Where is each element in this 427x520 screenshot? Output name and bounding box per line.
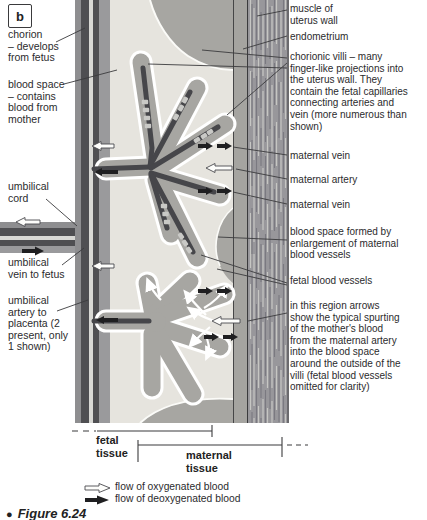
endometrium-band xyxy=(233,0,248,423)
label-blood-space-formed: blood space formed by enlargement of mat… xyxy=(290,226,427,261)
label-endometrium: endometrium xyxy=(290,31,427,43)
figure-caption: ● Figure 6.24 xyxy=(6,506,86,520)
panel-label: b xyxy=(8,4,32,28)
caption-bullet-icon: ● xyxy=(6,508,13,520)
legend-deoxygenated-label: flow of deoxygenated blood xyxy=(115,493,240,504)
legend-oxygenated-arrow-icon xyxy=(85,484,110,493)
chorion-band xyxy=(75,0,110,423)
legend-arrows xyxy=(85,484,110,505)
legend-deoxygenated-arrow-icon xyxy=(85,496,109,505)
muscle-band xyxy=(248,0,289,423)
label-umbilical-artery: umbilical artery to placenta (2 present,… xyxy=(8,295,68,353)
label-umbilical-vein: umbilical vein to fetus xyxy=(8,257,65,280)
label-spurting-note: in this region arrows show the typical s… xyxy=(290,300,427,393)
label-muscle-uterus: muscle of uterus wall xyxy=(290,3,427,26)
figure-page: b chorion – develops from fetus blood sp… xyxy=(0,0,427,520)
label-maternal-artery: maternal artery xyxy=(290,174,427,186)
label-fetal-blood-vessels: fetal blood vessels xyxy=(290,275,427,287)
label-chorion: chorion – develops from fetus xyxy=(8,29,59,64)
label-umbilical-cord: umbilical cord xyxy=(8,181,49,204)
umbilical-cord-band xyxy=(0,222,80,253)
legend-deoxygenated: flow of deoxygenated blood xyxy=(115,493,240,504)
label-maternal-tissue: maternal tissue xyxy=(186,449,232,474)
label-chorionic-villi: chorionic villi – many finger-like proje… xyxy=(290,51,427,132)
caption-text: Figure 6.24 xyxy=(18,506,87,520)
label-maternal-vein-1: maternal vein xyxy=(290,150,427,162)
legend-oxygenated: flow of oxygenated blood xyxy=(115,481,229,492)
label-blood-space: blood space – contains blood from mother xyxy=(8,79,65,125)
label-maternal-vein-2: maternal vein xyxy=(290,199,427,211)
legend-oxygenated-label: flow of oxygenated blood xyxy=(115,481,229,492)
label-fetal-tissue: fetal tissue xyxy=(96,434,128,459)
